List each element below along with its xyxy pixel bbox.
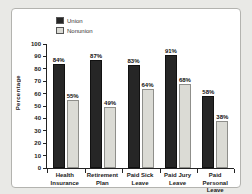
union-swatch-icon [56,17,64,24]
bar-value-label: 49% [104,100,116,106]
x-category-label: Retirement Plan [84,172,122,194]
legend-item-union: Union [56,17,93,24]
y-tick: 30 [34,128,47,134]
y-tick-label: 60 [34,91,41,97]
nonunion-swatch-icon [56,27,64,34]
bar-union-1 [90,60,102,168]
y-tick-label: 30 [34,128,41,134]
x-axis-labels: Health InsuranceRetirement PlanPaid Sick… [46,172,234,194]
legend-label-union: Union [67,18,83,24]
bar-union-4 [202,96,214,168]
y-tick-label: 10 [34,153,41,159]
bar-group: 87%49% [84,45,121,168]
y-tick: 70 [34,78,47,84]
bar-value-label: 87% [90,53,102,59]
bar-union-3 [165,55,177,168]
y-tick-label: 20 [34,140,41,146]
bar-wrap: 87% [89,53,103,168]
y-tick: 50 [34,103,47,109]
bar-nonunion-0 [67,100,79,168]
bar-value-label: 64% [142,82,154,88]
y-tick-label: 100 [31,41,41,47]
bar-value-label: 84% [53,57,65,63]
bar-value-label: 91% [165,48,177,54]
chart-panel: Union Nonunion Percentage 01020304050607… [11,8,241,188]
x-category-label: Paid Jury Leave [159,172,197,194]
y-tick-label: 50 [34,103,41,109]
bar-groups: 84%55%87%49%83%64%91%68%58%38% [47,45,234,168]
bar-value-label: 38% [216,114,228,120]
bar-wrap: 58% [201,89,215,168]
y-tick: 40 [34,115,47,121]
y-tick-label: 80 [34,66,41,72]
bar-value-label: 55% [67,93,79,99]
legend-item-nonunion: Nonunion [56,27,93,34]
x-category-label: Health Insurance [46,172,84,194]
y-tick: 10 [34,153,47,159]
legend: Union Nonunion [56,17,93,37]
bar-union-2 [128,65,140,168]
y-tick: 0 [38,165,47,171]
bar-value-label: 58% [202,89,214,95]
bar-value-label: 68% [179,77,191,83]
plot-area: 010203040506070809010084%55%87%49%83%64%… [46,45,234,169]
legend-label-nonunion: Nonunion [67,28,93,34]
bar-wrap: 68% [178,77,192,168]
y-tick: 60 [34,91,47,97]
y-tick: 80 [34,66,47,72]
y-tick-label: 90 [34,53,41,59]
bar-group: 84%55% [47,45,84,168]
y-tick: 20 [34,140,47,146]
bar-nonunion-1 [104,107,116,168]
bar-wrap: 38% [215,114,229,168]
y-tick: 100 [31,41,47,47]
bar-group: 91%68% [159,45,196,168]
x-category-label: Paid Sick Leave [121,172,159,194]
bar-wrap: 49% [103,100,117,168]
bar-nonunion-2 [142,89,154,168]
bar-group: 58%38% [197,45,234,168]
bar-nonunion-3 [179,84,191,168]
bar-union-0 [53,64,65,168]
x-category-label: Paid Personal Leave [196,172,234,194]
y-tick-label: 0 [38,165,41,171]
y-tick-label: 70 [34,78,41,84]
bar-wrap: 91% [164,48,178,168]
bar-group: 83%64% [122,45,159,168]
bar-wrap: 64% [141,82,155,168]
bar-wrap: 84% [52,57,66,168]
bar-wrap: 83% [127,58,141,168]
y-axis-title: Percentage [15,75,21,110]
y-tick: 90 [34,53,47,59]
bar-wrap: 55% [66,93,80,168]
x-tick-mark [234,169,235,173]
bar-value-label: 83% [128,58,140,64]
y-tick-label: 40 [34,115,41,121]
bar-nonunion-4 [216,121,228,168]
